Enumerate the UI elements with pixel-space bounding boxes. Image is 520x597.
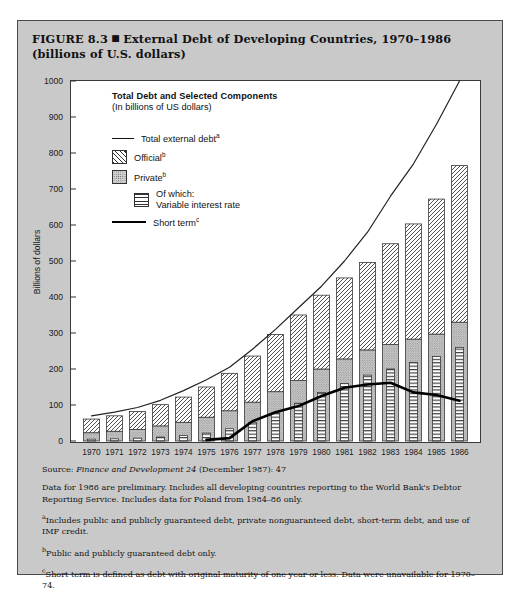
- legend-label-line2: Variable interest rate: [156, 200, 240, 210]
- bar-variable-rate-1972: [134, 438, 142, 441]
- legend-note-marker: b: [163, 171, 167, 178]
- bar-variable-rate-1973: [157, 437, 165, 441]
- note-c: cShort term is defined as debt with orig…: [42, 566, 482, 592]
- bar-official-1975: [199, 387, 215, 417]
- y-tick-100: 100: [49, 400, 63, 410]
- legend-title: Total Debt and Selected Components: [112, 91, 322, 101]
- legend-subtitle: (In billions of US dollars): [112, 102, 322, 112]
- legend-item-line: Total external debta: [112, 132, 322, 144]
- y-tick-0: 0: [58, 436, 63, 446]
- y-tick-mark-500: [70, 261, 76, 262]
- bar-official-1977: [245, 356, 261, 402]
- y-tick-600: 600: [49, 220, 63, 230]
- bar-official-1972: [130, 411, 146, 429]
- legend-swatch-horizontal-lines: [134, 193, 149, 207]
- y-tick-mark-700: [70, 189, 76, 190]
- x-tick-1971: 1971: [105, 447, 123, 457]
- bar-variable-rate-1981: [341, 383, 349, 441]
- source-label: Source:: [42, 464, 74, 474]
- source-rest: (December 1987): 47: [199, 464, 286, 474]
- bar-official-1979: [291, 315, 307, 381]
- x-tick-1982: 1982: [358, 447, 376, 457]
- legend-swatch-thick-line: [112, 221, 146, 223]
- bar-official-1973: [153, 405, 169, 426]
- bar-official-1984: [406, 224, 422, 339]
- y-tick-mark-800: [70, 153, 76, 154]
- figure-number: FIGURE 8.3: [32, 32, 108, 46]
- bar-official-1985: [429, 199, 445, 334]
- bar-variable-rate-1970: [88, 439, 96, 441]
- bar-official-1971: [107, 416, 123, 431]
- note-source: Source: Finance and Development 24 (Dece…: [42, 464, 482, 475]
- bar-official-1974: [176, 397, 192, 422]
- x-tick-1977: 1977: [243, 447, 261, 457]
- legend-note-marker: c: [196, 216, 199, 223]
- figure-panel: FIGURE 8.3 ■ External Debt of Developing…: [17, 20, 503, 575]
- bar-official-1980: [314, 295, 330, 369]
- legend-swatch-diagonal-hatch: [112, 150, 127, 164]
- x-tick-1980: 1980: [312, 447, 330, 457]
- y-tick-300: 300: [49, 328, 63, 338]
- y-tick-mark-200: [70, 369, 76, 370]
- bar-variable-rate-1985: [433, 356, 441, 441]
- y-tick-mark-900: [70, 117, 76, 118]
- legend-label: Officialb: [134, 151, 165, 163]
- x-tick-1973: 1973: [151, 447, 169, 457]
- y-tick-1000: 1000: [44, 76, 63, 86]
- x-tick-1975: 1975: [197, 447, 215, 457]
- note-a: aIncludes public and publicly guaranteed…: [42, 512, 482, 538]
- x-tick-1981: 1981: [335, 447, 353, 457]
- y-tick-500: 500: [49, 256, 63, 266]
- bar-official-1981: [337, 278, 353, 359]
- y-tick-mark-1000: [70, 81, 76, 82]
- figure-title: FIGURE 8.3 ■ External Debt of Developing…: [32, 31, 490, 62]
- y-axis-label: Billions of dollars: [30, 80, 44, 443]
- note-b: bPublic and publicly guaranteed debt onl…: [42, 545, 482, 559]
- note-c-text: Short term is defined as debt with origi…: [42, 569, 475, 590]
- y-axis-label-text: Billions of dollars: [32, 229, 42, 293]
- x-tick-1979: 1979: [289, 447, 307, 457]
- legend-note-marker: b: [162, 151, 166, 158]
- legend-label: Of which:Variable interest rate: [156, 189, 240, 210]
- bar-variable-rate-1983: [387, 369, 395, 441]
- bar-official-1983: [383, 244, 399, 345]
- legend-note-marker: a: [216, 132, 220, 139]
- x-tick-1983: 1983: [381, 447, 399, 457]
- bar-official-1976: [222, 373, 238, 410]
- title-bullet-icon: ■: [108, 33, 123, 43]
- y-tick-mark-100: [70, 405, 76, 406]
- bar-variable-rate-1979: [295, 403, 303, 441]
- legend-item-diagonal-hatch: Officialb: [112, 150, 322, 164]
- chart-legend: Total Debt and Selected Components (In b…: [112, 91, 322, 228]
- bar-variable-rate-1978: [272, 413, 280, 441]
- y-tick-mark-600: [70, 225, 76, 226]
- y-tick-mark-300: [70, 333, 76, 334]
- legend-swatch-stipple: [112, 170, 127, 184]
- x-tick-1978: 1978: [266, 447, 284, 457]
- figure-notes: Source: Finance and Development 24 (Dece…: [42, 464, 482, 597]
- note-general: Data for 1986 are preliminary. Includes …: [42, 482, 482, 505]
- y-tick-mark-400: [70, 297, 76, 298]
- bar-variable-rate-1971: [111, 439, 119, 441]
- note-b-text: Public and publicly guaranteed debt only…: [46, 547, 216, 557]
- legend-swatch-line: [112, 138, 134, 139]
- y-tick-800: 800: [49, 148, 63, 158]
- legend-label: Total external debta: [141, 132, 220, 144]
- bar-official-1986: [452, 166, 468, 323]
- legend-label: Short termc: [153, 216, 199, 228]
- legend-label-line1: Of which:: [156, 189, 194, 199]
- legend-items: Total external debtaOfficialbPrivatebOf …: [112, 132, 322, 228]
- y-tick-mark-0: [70, 441, 76, 442]
- note-a-text: Includes public and publicly guaranteed …: [42, 515, 470, 536]
- bar-variable-rate-1977: [249, 422, 257, 441]
- legend-item-horizontal-lines: Of which:Variable interest rate: [134, 189, 322, 210]
- bar-variable-rate-1986: [456, 347, 464, 441]
- legend-item-stipple: Privateb: [112, 170, 322, 184]
- legend-label: Privateb: [134, 171, 166, 183]
- y-tick-400: 400: [49, 292, 63, 302]
- x-tick-1976: 1976: [220, 447, 238, 457]
- source-title: Finance and Development 24: [76, 464, 196, 474]
- x-tick-1984: 1984: [404, 447, 422, 457]
- y-tick-700: 700: [49, 184, 63, 194]
- bar-variable-rate-1984: [410, 363, 418, 441]
